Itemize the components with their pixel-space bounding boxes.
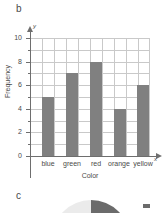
y-tick-label-2: 2 (6, 128, 22, 135)
bar-yellow (137, 85, 149, 156)
bar-blue (42, 97, 54, 156)
pie-legend (143, 204, 168, 210)
y-axis-title: Frequency (4, 56, 11, 108)
pie-disc (52, 200, 130, 213)
y-tick-major (26, 132, 31, 133)
bar-chart-plot-area (30, 38, 150, 156)
y-tick-label-10: 10 (6, 34, 22, 41)
bar-red (90, 62, 102, 156)
pie-chart-panel-c (52, 200, 130, 213)
y-tick-minor (28, 50, 31, 51)
y-tick-major (26, 38, 31, 39)
y-axis-variable-label: y (33, 23, 36, 29)
bar-series (30, 38, 150, 156)
y-tick-major (26, 109, 31, 110)
panel-label-b: b (16, 3, 22, 14)
y-tick-minor (28, 73, 31, 74)
bar-green (66, 73, 78, 156)
y-tick-minor (28, 97, 31, 98)
x-tick-label-yellow: yellow (128, 160, 158, 167)
x-axis-title: Color (30, 172, 150, 179)
bar-orange (114, 109, 126, 156)
x-axis-line (30, 156, 158, 157)
y-tick-minor (28, 121, 31, 122)
y-tick-minor (28, 144, 31, 145)
y-tick-major (26, 62, 31, 63)
legend-item (143, 204, 168, 208)
panel-label-c: c (16, 190, 21, 201)
legend-swatch-icon (143, 204, 150, 208)
bar-chart-panel-b: y x 0 2 4 6 8 10 blue green red orange y… (0, 22, 168, 187)
y-tick-label-0: 0 (6, 152, 22, 159)
y-tick-major (26, 156, 31, 157)
y-tick-major (26, 85, 31, 86)
